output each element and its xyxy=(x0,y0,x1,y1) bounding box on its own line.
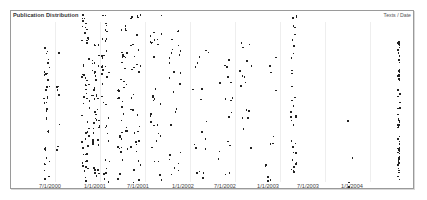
data-point xyxy=(180,50,182,52)
data-point xyxy=(158,133,160,135)
data-point xyxy=(82,26,84,28)
data-point xyxy=(92,70,94,72)
data-point xyxy=(151,147,153,149)
data-point xyxy=(58,52,60,54)
data-point xyxy=(130,109,132,111)
data-point xyxy=(102,73,104,75)
data-point xyxy=(117,178,119,180)
data-point xyxy=(267,180,269,182)
data-point xyxy=(218,158,220,160)
data-point xyxy=(88,58,90,60)
data-point xyxy=(119,173,121,175)
data-point xyxy=(398,172,400,174)
data-point xyxy=(43,98,45,100)
data-point xyxy=(399,102,401,104)
data-point xyxy=(269,65,271,67)
data-point xyxy=(224,65,226,67)
x-tick-label: 1/1/2004 xyxy=(341,183,363,189)
data-point xyxy=(105,159,107,161)
data-point xyxy=(227,141,229,143)
data-point xyxy=(45,147,47,149)
data-point xyxy=(265,164,267,166)
data-point xyxy=(226,66,228,68)
data-point xyxy=(270,72,272,74)
gridline xyxy=(235,22,236,182)
data-point xyxy=(291,100,293,102)
data-point xyxy=(93,89,95,91)
data-point xyxy=(88,39,90,41)
data-point xyxy=(137,131,139,133)
data-point xyxy=(101,66,103,68)
data-point xyxy=(201,131,203,133)
data-point xyxy=(95,114,97,116)
data-point xyxy=(96,175,98,177)
data-point xyxy=(105,172,107,174)
data-point xyxy=(240,85,242,87)
data-point xyxy=(97,139,99,141)
data-point xyxy=(227,76,229,78)
gridline xyxy=(325,22,326,182)
data-point xyxy=(397,176,399,178)
data-point xyxy=(246,109,248,111)
data-point xyxy=(58,94,60,96)
data-point xyxy=(94,172,96,174)
data-point xyxy=(399,141,401,143)
data-point xyxy=(155,88,157,90)
data-point xyxy=(86,40,88,42)
data-point xyxy=(47,96,49,98)
data-point xyxy=(159,174,161,176)
data-point xyxy=(105,40,107,42)
data-point xyxy=(106,38,108,40)
data-point xyxy=(399,136,401,138)
data-point xyxy=(93,128,95,130)
data-point xyxy=(399,47,401,49)
data-point xyxy=(121,120,123,122)
data-point xyxy=(105,104,107,106)
data-point xyxy=(137,17,139,19)
data-point xyxy=(203,172,205,174)
data-point xyxy=(138,179,140,181)
data-point xyxy=(126,127,128,129)
data-point xyxy=(174,167,176,169)
data-point xyxy=(196,172,198,174)
data-point xyxy=(106,168,108,170)
data-point xyxy=(123,87,125,89)
data-point xyxy=(292,146,294,148)
data-point xyxy=(246,60,248,62)
data-point xyxy=(124,68,126,70)
data-point xyxy=(242,47,244,49)
data-point xyxy=(106,25,108,27)
data-point xyxy=(98,55,100,57)
data-point xyxy=(180,72,182,74)
data-point xyxy=(399,124,401,126)
x-tick-label: 7/1/2000 xyxy=(39,183,61,189)
data-point xyxy=(160,103,162,105)
data-point xyxy=(126,130,128,132)
data-point xyxy=(239,70,241,72)
data-point xyxy=(273,136,275,138)
data-point xyxy=(81,76,83,78)
data-point xyxy=(126,84,128,86)
data-point xyxy=(295,116,297,118)
data-point xyxy=(133,67,135,69)
data-point xyxy=(46,53,48,55)
data-point xyxy=(87,121,89,123)
data-point xyxy=(399,45,401,47)
data-point xyxy=(107,133,109,135)
data-point xyxy=(178,163,180,165)
data-point xyxy=(228,116,230,118)
data-point xyxy=(291,140,293,142)
data-point xyxy=(398,41,400,43)
data-point xyxy=(134,56,136,58)
data-point xyxy=(293,166,295,168)
data-point xyxy=(106,76,108,78)
data-point xyxy=(85,23,87,25)
data-point xyxy=(169,159,171,161)
data-point xyxy=(136,34,138,36)
data-point xyxy=(82,165,84,167)
data-point xyxy=(45,89,47,91)
data-point xyxy=(44,178,46,180)
data-point xyxy=(86,98,88,100)
data-point xyxy=(93,122,95,124)
data-point xyxy=(138,160,140,162)
